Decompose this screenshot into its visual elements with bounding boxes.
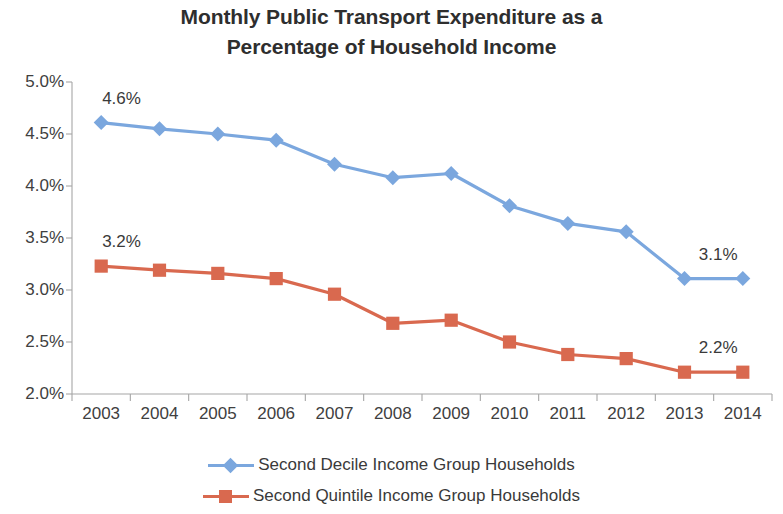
y-axis-tick-label: 4.5%: [6, 125, 64, 143]
data-point-marker[interactable]: [502, 198, 517, 213]
data-point-marker[interactable]: [94, 115, 109, 130]
plot-svg: [0, 0, 783, 514]
data-point-marker[interactable]: [444, 166, 459, 181]
data-point-marker[interactable]: [269, 133, 284, 148]
data-point-marker[interactable]: [385, 170, 400, 185]
chart-title-line-2: Percentage of Household Income: [0, 32, 783, 62]
x-axis-tick-label: 2003: [72, 401, 130, 431]
data-point-marker[interactable]: [152, 121, 167, 136]
data-point-marker[interactable]: [503, 335, 516, 348]
x-axis-tick-label: 2011: [539, 401, 597, 431]
legend-label-series-1: Second Quintile Income Group Households: [253, 486, 580, 506]
x-axis-tick-label: 2014: [714, 401, 772, 431]
x-axis-tick-label: 2005: [189, 401, 247, 431]
chart-legend: Second Decile Income Group Households Se…: [0, 449, 783, 511]
data-point-label: 3.2%: [102, 233, 141, 251]
x-axis-tick-label: 2006: [247, 401, 305, 431]
y-axis-tick-label: 4.0%: [6, 177, 64, 195]
legend-label-series-0: Second Decile Income Group Households: [258, 455, 575, 475]
data-point-marker[interactable]: [386, 317, 399, 330]
data-point-marker[interactable]: [210, 127, 225, 142]
data-point-marker[interactable]: [211, 267, 224, 280]
data-point-marker[interactable]: [270, 272, 283, 285]
x-axis-labels: 2003200420052006200720082009201020112012…: [72, 401, 772, 431]
x-axis-tick-label: 2010: [480, 401, 538, 431]
y-axis-tick-label: 2.5%: [6, 333, 64, 351]
data-point-marker[interactable]: [327, 157, 342, 172]
legend-key-square-icon: [203, 487, 249, 505]
chart-title: Monthly Public Transport Expenditure as …: [0, 2, 783, 62]
series-line-1: [101, 266, 743, 372]
data-point-label: 3.1%: [699, 246, 738, 264]
legend-item-series-1[interactable]: Second Quintile Income Group Households: [0, 480, 783, 511]
y-axis-tick-label: 3.5%: [6, 229, 64, 247]
chart-title-line-1: Monthly Public Transport Expenditure as …: [0, 2, 783, 32]
data-point-marker[interactable]: [95, 260, 108, 273]
y-axis-tick-label: 2.0%: [6, 385, 64, 403]
x-axis-tick-label: 2008: [364, 401, 422, 431]
x-axis-tick-label: 2013: [655, 401, 713, 431]
y-axis-labels: 5.0%4.5%4.0%3.5%3.0%2.5%2.0%: [0, 0, 64, 514]
data-point-marker[interactable]: [678, 366, 691, 379]
x-axis-tick-label: 2007: [305, 401, 363, 431]
data-point-marker[interactable]: [736, 366, 749, 379]
data-point-label: 2.2%: [699, 339, 738, 357]
series-line-0: [101, 123, 743, 279]
data-point-marker[interactable]: [328, 288, 341, 301]
data-point-marker[interactable]: [620, 352, 633, 365]
legend-item-series-0[interactable]: Second Decile Income Group Households: [0, 449, 783, 480]
data-point-marker[interactable]: [619, 224, 634, 239]
x-axis-tick-label: 2012: [597, 401, 655, 431]
data-point-marker[interactable]: [445, 314, 458, 327]
data-point-marker[interactable]: [561, 348, 574, 361]
data-point-marker[interactable]: [560, 216, 575, 231]
data-point-label: 4.6%: [102, 90, 141, 108]
y-axis-tick-label: 3.0%: [6, 281, 64, 299]
x-axis-tick-label: 2009: [422, 401, 480, 431]
data-point-marker[interactable]: [735, 271, 750, 286]
data-point-marker[interactable]: [153, 264, 166, 277]
data-point-marker[interactable]: [677, 271, 692, 286]
x-axis-tick-label: 2004: [130, 401, 188, 431]
chart-container: Monthly Public Transport Expenditure as …: [0, 0, 783, 514]
y-axis-tick-label: 5.0%: [6, 73, 64, 91]
legend-key-diamond-icon: [208, 456, 254, 474]
